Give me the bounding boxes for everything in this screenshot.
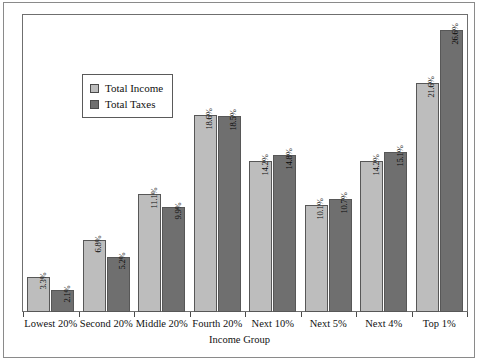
bar-group: 21.6%26.6% xyxy=(416,15,463,312)
x-axis-tick xyxy=(412,312,413,317)
bar-total-taxes[interactable]: 5.2% xyxy=(107,257,130,312)
bar-total-income[interactable]: 10.1% xyxy=(305,205,328,312)
x-axis-label: Middle 20% xyxy=(134,318,190,329)
bar-total-taxes[interactable]: 26.6% xyxy=(440,30,463,312)
bar-total-taxes[interactable]: 15.1% xyxy=(384,152,407,312)
bar-value-label: 14.2% xyxy=(261,155,270,176)
plot-area: 3.3%2.1%6.8%5.2%11.1%9.9%18.6%18.5%14.2%… xyxy=(23,15,467,312)
x-axis-tick xyxy=(190,312,191,317)
bar-value-label: 5.2% xyxy=(118,252,127,269)
x-axis-label: Top 1% xyxy=(412,318,468,329)
bar-total-taxes[interactable]: 2.1% xyxy=(51,290,74,312)
bar-total-income[interactable]: 14.2% xyxy=(249,161,272,312)
bar-group: 6.8%5.2% xyxy=(83,15,130,312)
legend-label: Total Taxes xyxy=(105,98,156,110)
chart-legend: Total IncomeTotal Taxes xyxy=(82,74,173,118)
x-axis-tick xyxy=(467,312,468,317)
bars-layer: 3.3%2.1%6.8%5.2%11.1%9.9%18.6%18.5%14.2%… xyxy=(23,15,467,312)
bar-value-label: 10.7% xyxy=(340,192,349,213)
legend-swatch-income-icon xyxy=(90,84,99,93)
bar-total-income[interactable]: 14.2% xyxy=(360,161,383,312)
bar-total-income[interactable]: 3.3% xyxy=(27,277,50,312)
bar-value-label: 14.8% xyxy=(285,148,294,169)
bar-total-taxes[interactable]: 14.8% xyxy=(273,155,296,312)
bar-total-income[interactable]: 11.1% xyxy=(138,194,161,312)
bar-value-label: 18.5% xyxy=(229,109,238,130)
legend-item: Total Taxes xyxy=(90,96,163,112)
bar-total-taxes[interactable]: 18.5% xyxy=(218,116,241,312)
bar-group: 14.2%14.8% xyxy=(249,15,296,312)
x-axis-tick xyxy=(134,312,135,317)
bar-group: 18.6%18.5% xyxy=(194,15,241,312)
x-axis-tick xyxy=(356,312,357,317)
bar-value-label: 10.1% xyxy=(316,198,325,219)
x-axis-tick xyxy=(301,312,302,317)
legend-item: Total Income xyxy=(90,80,163,96)
x-axis-title: Income Group xyxy=(0,334,479,345)
x-axis-label: Next 5% xyxy=(301,318,357,329)
bar-group: 14.2%15.1% xyxy=(360,15,407,312)
bar-value-label: 3.3% xyxy=(39,272,48,289)
x-axis-label: Lowest 20% xyxy=(23,318,79,329)
bar-value-label: 14.2% xyxy=(372,155,381,176)
bar-total-taxes[interactable]: 9.9% xyxy=(162,207,185,312)
bar-value-label: 18.6% xyxy=(205,108,214,129)
x-axis-label: Second 20% xyxy=(79,318,135,329)
legend-swatch-taxes-icon xyxy=(90,100,99,109)
bar-group: 10.1%10.7% xyxy=(305,15,352,312)
chart-figure: Percentage Share of Income and Taxes 3.3… xyxy=(0,0,479,363)
x-axis-tick xyxy=(23,312,24,317)
bar-group: 3.3%2.1% xyxy=(27,15,74,312)
bar-value-label: 9.9% xyxy=(174,202,183,219)
bar-value-label: 21.6% xyxy=(427,76,436,97)
x-axis-label: Next 4% xyxy=(356,318,412,329)
bar-value-label: 6.8% xyxy=(94,235,103,252)
x-axis-tick xyxy=(79,312,80,317)
bar-value-label: 15.1% xyxy=(396,145,405,166)
x-axis-tick xyxy=(245,312,246,317)
bar-total-income[interactable]: 6.8% xyxy=(83,240,106,312)
bar-group: 11.1%9.9% xyxy=(138,15,185,312)
bar-value-label: 26.6% xyxy=(451,23,460,44)
bar-total-income[interactable]: 18.6% xyxy=(194,115,217,312)
bar-value-label: 2.1% xyxy=(63,285,72,302)
bar-total-income[interactable]: 21.6% xyxy=(416,83,439,312)
bar-total-taxes[interactable]: 10.7% xyxy=(329,199,352,312)
legend-label: Total Income xyxy=(105,82,163,94)
x-axis-label: Next 10% xyxy=(245,318,301,329)
bar-value-label: 11.1% xyxy=(150,188,159,209)
x-axis-label: Fourth 20% xyxy=(190,318,246,329)
